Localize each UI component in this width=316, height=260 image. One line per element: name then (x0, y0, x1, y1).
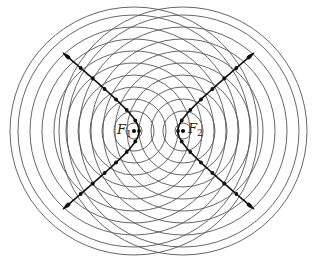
vertex-dot (176, 129, 180, 133)
intersection-dot (188, 150, 192, 154)
intersection-dot (222, 182, 226, 186)
intersection-dot (67, 56, 71, 60)
intersection-dots (67, 56, 251, 207)
intersection-dot (125, 108, 129, 112)
intersection-dot (247, 56, 251, 60)
intersection-dot (234, 192, 238, 196)
intersection-dot (180, 140, 184, 144)
focus-label-f1-main: F (117, 122, 126, 137)
intersection-dot (91, 182, 95, 186)
focus-label-f1: F1 (117, 123, 132, 139)
intersection-dot (234, 66, 238, 70)
intersection-dot (103, 171, 107, 175)
intersection-dot (210, 171, 214, 175)
focus-dot-f1 (132, 129, 136, 133)
wave-interference-diagram (0, 0, 316, 260)
intersection-dot (125, 150, 129, 154)
intersection-dot (79, 192, 83, 196)
focus-dot-f2 (181, 129, 185, 133)
intersection-dot (103, 87, 107, 91)
intersection-dot (114, 161, 118, 165)
intersection-dot (199, 98, 203, 102)
intersection-dot (133, 119, 137, 123)
intersection-dot (199, 161, 203, 165)
intersection-dot (79, 66, 83, 70)
intersection-dot (91, 77, 95, 81)
intersection-dot (67, 203, 71, 207)
intersection-dot (247, 203, 251, 207)
focus-label-f2-main: F (188, 121, 197, 136)
intersection-dot (210, 87, 214, 91)
intersection-dot (114, 98, 118, 102)
focus-label-f2-sub: 2 (197, 128, 203, 138)
vertex-dot (137, 129, 141, 133)
intersection-dot (133, 140, 137, 144)
intersection-dot (188, 108, 192, 112)
focus-label-f1-sub: 1 (126, 129, 132, 139)
intersection-dot (180, 119, 184, 123)
focus-label-f2: F2 (188, 122, 203, 138)
intersection-dot (222, 77, 226, 81)
